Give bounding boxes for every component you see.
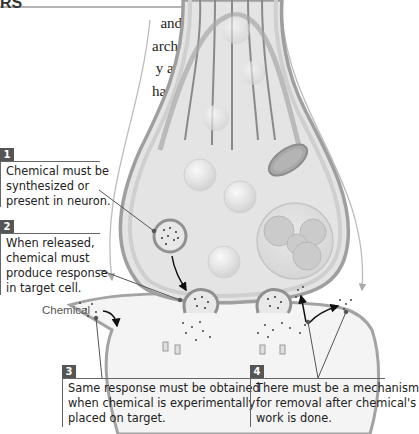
divider [0, 233, 1, 295]
fusing-vesicle-right [257, 290, 291, 313]
callout-text: Same response must be obtained when chem… [68, 381, 260, 426]
divider [0, 233, 100, 234]
filled-vesicle-1 [154, 220, 186, 252]
divider [0, 161, 1, 207]
divider [62, 378, 257, 379]
divider [250, 378, 251, 427]
divider [0, 161, 100, 162]
fusing-vesicle-left [184, 290, 218, 313]
callout-number: 3 [62, 365, 76, 378]
callout-2: 2 When released, chemical must produce r… [0, 220, 100, 295]
vesicle [224, 181, 256, 213]
callout-text: When released, chemical must produce res… [6, 236, 108, 296]
callout-text: Chemical must be synthesized or present … [6, 164, 111, 209]
vesicle [208, 246, 240, 278]
chemical-label: Chemical [42, 304, 90, 316]
divider [62, 378, 63, 427]
vesicle [184, 159, 216, 191]
callout-text: There must be a mechanism for removal af… [256, 381, 419, 426]
callout-number: 1 [0, 148, 14, 161]
callout-number: 2 [0, 220, 14, 233]
callout-1: 1 Chemical must be synthesized or presen… [0, 148, 100, 208]
callout-3: 3 Same response must be obtained when ch… [62, 365, 257, 430]
callout-number: 4 [250, 365, 264, 378]
callout-4: 4 There must be a mechanism for removal … [250, 365, 385, 430]
divider [250, 378, 385, 379]
